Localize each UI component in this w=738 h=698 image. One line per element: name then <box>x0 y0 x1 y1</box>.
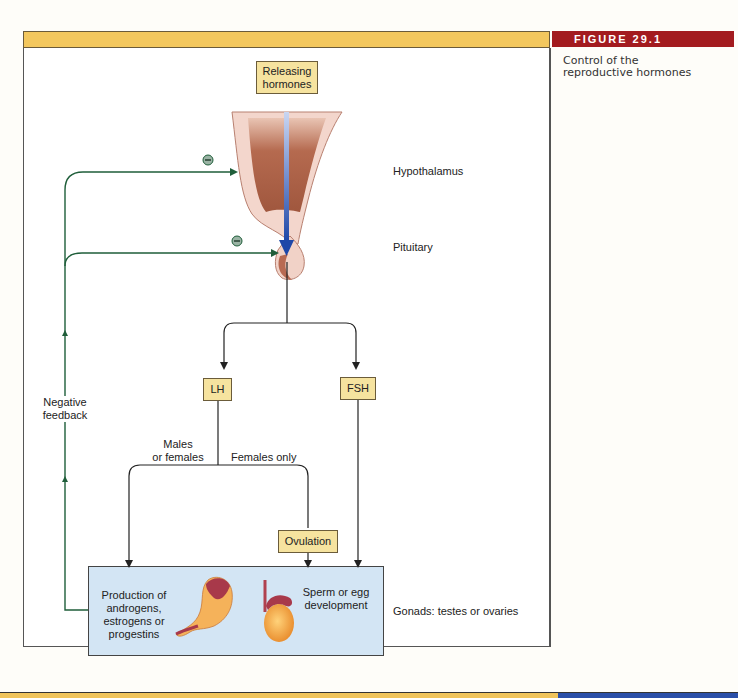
footer-bar-blue <box>558 692 738 698</box>
sperm-egg-line-1: Sperm or egg <box>300 586 372 599</box>
gonads-label: Gonads: testes or ovaries <box>393 605 518 618</box>
production-line-4: progestins <box>96 628 172 641</box>
production-line-1: Production of <box>96 589 172 602</box>
males-or-females-line1: Males <box>150 438 206 451</box>
males-or-females-label: Males or females <box>150 438 206 464</box>
releasing-hormones-line2: hormones <box>257 78 317 91</box>
inhibit-symbol-pituitary <box>232 236 242 246</box>
negative-feedback-line2: feedback <box>42 409 88 422</box>
negative-feedback-line1: Negative <box>42 396 88 409</box>
hypothalamus-label: Hypothalamus <box>393 165 463 178</box>
production-line-3: estrogens or <box>96 615 172 628</box>
ovulation-box: Ovulation <box>278 530 338 553</box>
lh-box: LH <box>203 378 232 401</box>
males-or-females-line2: or females <box>150 451 206 464</box>
production-hormones-label: Production of androgens, estrogens or pr… <box>96 589 172 641</box>
pituitary-label: Pituitary <box>393 241 433 254</box>
negative-feedback-loop <box>62 172 275 610</box>
testis-illustration <box>264 580 294 642</box>
footer-bar-yellow <box>0 692 558 698</box>
ovary-illustration <box>176 577 232 636</box>
females-only-label: Females only <box>231 451 296 464</box>
inhibit-symbol-hypothalamus <box>203 155 213 165</box>
releasing-hormones-line1: Releasing <box>257 65 317 78</box>
releasing-hormones-box: Releasing hormones <box>256 61 318 94</box>
fsh-box: FSH <box>340 377 376 400</box>
production-line-2: androgens, <box>96 602 172 615</box>
sperm-egg-line-2: development <box>300 599 372 612</box>
sperm-egg-development-label: Sperm or egg development <box>300 586 372 612</box>
negative-feedback-label: Negative feedback <box>42 396 88 422</box>
